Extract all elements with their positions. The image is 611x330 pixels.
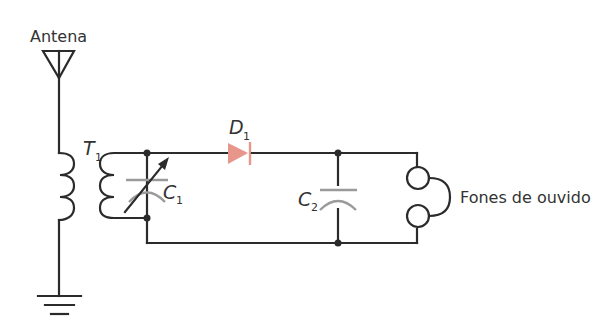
c2-subscript: 2 <box>311 201 318 214</box>
junction-dot <box>335 240 342 247</box>
c1-subscript: 1 <box>176 194 183 207</box>
earphone-icon <box>407 167 450 227</box>
variable-arrow <box>125 165 163 212</box>
diode-label: D <box>229 116 244 138</box>
c1-label: C <box>163 181 177 203</box>
antenna-icon <box>43 51 74 78</box>
junction-dot <box>335 150 342 157</box>
diode-d1 <box>228 142 250 165</box>
earphones-label: Fones de ouvido <box>460 188 591 207</box>
c2-label: C <box>298 188 312 210</box>
diode-subscript: 1 <box>243 130 250 143</box>
transformer-secondary-coil <box>100 153 147 218</box>
circuit-diagram: Antena T 1 C 1 D 1 <box>0 0 611 330</box>
antenna-label: Antena <box>30 27 87 46</box>
junction-dot <box>144 215 151 222</box>
transformer-primary-coil <box>59 153 74 220</box>
capacitor-c2 <box>320 186 358 210</box>
ground-icon <box>38 296 81 314</box>
